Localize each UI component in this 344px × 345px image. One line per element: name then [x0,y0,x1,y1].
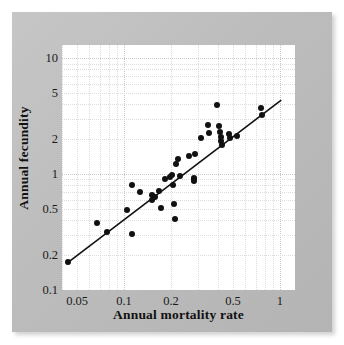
x-tick-label: 1 [260,295,300,308]
y-axis-title: Annual fecundity [16,78,32,238]
x-tick-label: 0.05 [57,295,97,308]
x-tick-label: 0.1 [104,295,144,308]
x-axis-ticks: 0.050.10.20.51 [0,0,344,345]
x-tick-label: 0.5 [213,295,253,308]
x-axis-title: Annual mortality rate [62,307,295,323]
x-tick-label: 0.2 [151,295,191,308]
figure-container: 0.10.20.512510 0.050.10.20.51 Annual mor… [0,0,344,345]
